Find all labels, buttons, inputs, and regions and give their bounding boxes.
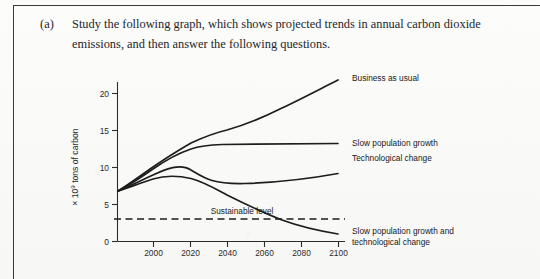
y-tick-label-5: 5	[104, 200, 109, 210]
x-tick-label-2080: 2080	[292, 248, 311, 258]
screenshot-page: (a) Study the following graph, which sho…	[0, 0, 540, 279]
x-tick-label-2100: 2100	[329, 248, 348, 258]
series-label-slow-population-growth: Slow population growth	[352, 138, 438, 148]
x-tick-label-2060: 2060	[255, 248, 274, 258]
y-tick-label-10: 10	[100, 163, 110, 173]
y-tick-label-20: 20	[100, 89, 110, 99]
y-axis-title: × 109 tons of carbon	[69, 128, 80, 205]
series-line-business-as-usual	[118, 80, 338, 191]
series-label-technological-change: Technological change	[352, 153, 432, 163]
emissions-line-chart: 0 5 10 15 20 2000 2020 2040 2060 2080 21…	[0, 0, 540, 279]
series-label-slow-pop-and-tech-line2: technological change	[352, 237, 430, 247]
series-label-slow-pop-and-tech-line1: Slow population growth and	[352, 226, 454, 236]
svg-text:× 109 tons of carbon: × 109 tons of carbon	[69, 128, 80, 205]
x-axis-ticks	[154, 242, 339, 248]
x-tick-label-2020: 2020	[181, 248, 200, 258]
y-tick-label-0: 0	[104, 237, 109, 247]
series-label-business-as-usual: Business as usual	[352, 73, 419, 83]
y-axis-title-suffix: tons of carbon	[70, 128, 80, 185]
y-tick-label-15: 15	[100, 126, 110, 136]
x-tick-label-2000: 2000	[144, 248, 163, 258]
sustainable-level-label: Sustainable level	[211, 206, 274, 216]
y-axis-title-prefix: × 10	[70, 188, 80, 205]
x-tick-label-2040: 2040	[218, 248, 237, 258]
